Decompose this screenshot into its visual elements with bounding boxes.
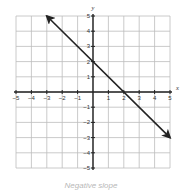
x-tick-label: 2 <box>122 95 126 101</box>
coordinate-plane: −5−4−3−2−11234554321−1−2−3−4−5xy <box>0 0 182 180</box>
y-tick-label: −2 <box>83 119 91 125</box>
x-tick-label: 4 <box>153 95 157 101</box>
x-tick-label: 3 <box>138 95 142 101</box>
tick-labels: −5−4−3−2−11234554321−1−2−3−4−5xy <box>13 4 179 171</box>
axes <box>14 14 172 170</box>
x-tick-label: −5 <box>13 95 21 101</box>
x-tick-label: −1 <box>74 95 82 101</box>
x-tick-label: 5 <box>168 95 172 101</box>
x-tick-label: −2 <box>59 95 67 101</box>
y-axis-label: y <box>91 4 95 11</box>
y-tick-label: −5 <box>83 165 91 171</box>
x-tick-label: −3 <box>43 95 51 101</box>
x-axis-label: x <box>175 84 179 91</box>
y-tick-label: −3 <box>83 135 91 141</box>
y-tick-label: −1 <box>83 104 91 110</box>
x-tick-label: 1 <box>107 95 111 101</box>
x-tick-label: −4 <box>28 95 36 101</box>
chart-caption: Negative slope <box>0 181 182 190</box>
y-tick-label: −4 <box>83 150 91 156</box>
